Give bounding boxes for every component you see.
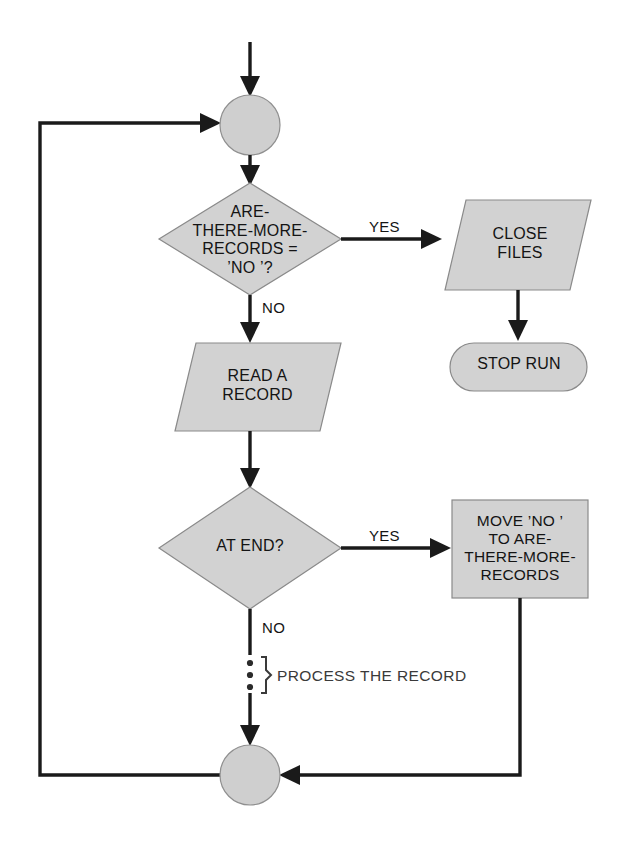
move-no-node [452,500,588,598]
edge-label-no-more-records: NO [262,299,285,316]
process-ellipsis-dots [247,660,253,690]
edge-close-files-to-stop-run [508,290,528,341]
read-a-record-node [175,343,341,431]
end-connector-node [220,745,280,805]
close-files-node [445,200,591,290]
decision-more-records-node [159,183,341,295]
edge-entry-arrow [240,42,260,97]
edge-no-to-read-record [240,295,260,343]
flowchart-graphics [0,0,628,852]
edge-label-no-at-end: NO [262,619,285,636]
edge-label-yes-at-end: YES [369,527,400,544]
edge-label-yes-more-records: YES [369,218,400,235]
decision-at-end-node [159,487,341,609]
edge-read-record-to-at-end [240,431,260,489]
edge-move-no-to-end-connector [279,598,520,785]
edge-loop-back [40,113,222,775]
stop-run-node [450,343,587,391]
process-the-record-annotation: PROCESS THE RECORD [277,667,467,685]
edge-start-to-decision1 [240,155,260,186]
process-brace-icon [261,657,271,693]
flowchart-canvas: ARE-THERE-MORE-RECORDS =’NO ’? CLOSEFILE… [0,0,628,852]
start-connector-node [220,95,280,155]
